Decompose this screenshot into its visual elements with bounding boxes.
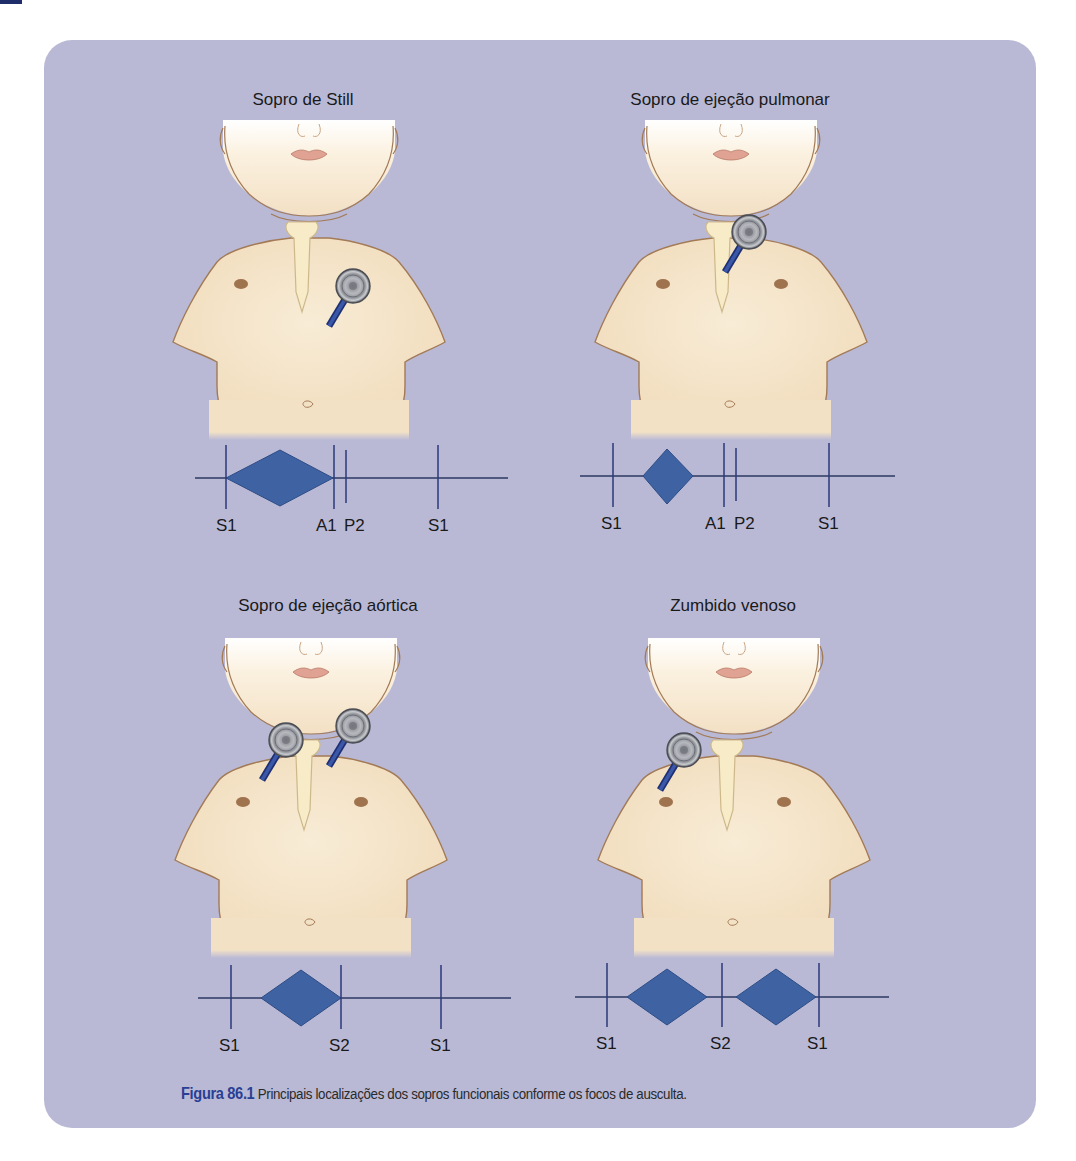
- phonocardiogram-pulmonary: [580, 443, 895, 507]
- label-s1: S1: [818, 514, 839, 534]
- label-s2: S2: [710, 1034, 731, 1054]
- phonocardiogram-venous-hum: [575, 963, 889, 1027]
- label-p2: P2: [734, 514, 755, 534]
- label-s1: S1: [219, 1036, 240, 1056]
- label-a1: A1: [316, 516, 337, 536]
- label-p2: P2: [344, 516, 365, 536]
- label-s1: S1: [428, 516, 449, 536]
- illustration-aortic: [175, 638, 447, 958]
- label-s1: S1: [596, 1034, 617, 1054]
- figure-illustrations: [0, 0, 1076, 1161]
- label-s1: S1: [430, 1036, 451, 1056]
- label-s2: S2: [329, 1036, 350, 1056]
- figure-caption: Figura 86.1 Principais localizações dos …: [181, 1084, 687, 1104]
- label-a1: A1: [705, 514, 726, 534]
- phonocardiogram-still: [195, 445, 508, 509]
- illustration-venous-hum: [598, 638, 870, 958]
- figure-caption-text: Principais localizações dos sopros funci…: [254, 1085, 686, 1102]
- label-s1: S1: [807, 1034, 828, 1054]
- figure-number: Figura 86.1: [181, 1084, 254, 1103]
- label-s1: S1: [216, 516, 237, 536]
- label-s1: S1: [601, 514, 622, 534]
- illustration-still: [173, 120, 445, 440]
- illustration-pulmonary: [595, 120, 867, 440]
- phonocardiogram-aortic: [198, 965, 511, 1029]
